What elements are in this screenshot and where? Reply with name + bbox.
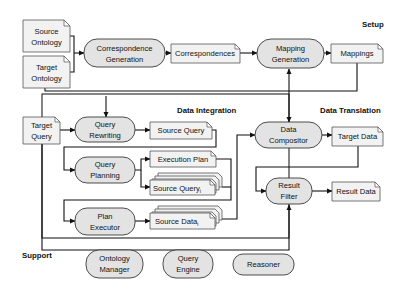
doc-label: Source Query — [158, 126, 205, 135]
doc-target-query: Target Query — [23, 117, 60, 144]
process-label: Correspondence — [96, 44, 152, 53]
process-label: Compositor — [269, 136, 308, 145]
doc-target-ontology: Target Ontology — [23, 56, 70, 88]
doc-label: Source Datai — [155, 217, 198, 227]
doc-label: Target — [36, 63, 58, 72]
doc-label: Target Data — [338, 132, 378, 141]
process-result-filter: Result Filter — [266, 178, 312, 204]
process-label: Mapping — [276, 44, 305, 53]
doc-execution-plan: Execution Plan — [150, 151, 216, 167]
doc-label: Ontology — [31, 74, 62, 83]
doc-label: Target — [31, 121, 53, 130]
process-label: Manager — [100, 265, 130, 274]
process-label: Plan — [97, 212, 112, 221]
doc-label: Result Data — [336, 187, 376, 196]
doc-source-query: Source Query — [150, 122, 212, 139]
connector — [70, 36, 74, 72]
process-label: Rewriting — [89, 131, 121, 140]
process-label: Query — [95, 160, 116, 169]
process-query-planning: Query Planning — [75, 157, 135, 183]
connector — [222, 135, 255, 219]
section-label-support: Support — [22, 251, 52, 260]
doc-label: Ontology — [31, 38, 62, 47]
section-label-data-integration: Data Integration — [177, 106, 237, 115]
connector — [45, 88, 289, 91]
doc-correspondences: Correspondences — [171, 44, 240, 63]
process-mapping-generation: Mapping Generation — [257, 39, 324, 68]
doc-target-data: Target Data — [332, 127, 383, 146]
process-label: Engine — [176, 265, 200, 274]
architecture-diagram: Setup Data Integration Data Translation … — [0, 0, 404, 294]
process-label: Executor — [90, 223, 120, 232]
doc-mappings: Mappings — [331, 44, 383, 63]
doc-stack-source-data-i: Source Datai — [150, 206, 222, 229]
section-label-data-translation: Data Translation — [320, 106, 381, 115]
process-query-engine: Query Engine — [163, 250, 213, 278]
process-label: Ontology — [99, 254, 130, 263]
process-label: Generation — [272, 55, 310, 64]
doc-label: Query — [31, 132, 52, 141]
doc-label: Source — [34, 27, 58, 36]
process-label: Query — [178, 254, 199, 263]
doc-stack-source-query-i: Source Queryi — [150, 173, 222, 195]
process-label: Generation — [106, 55, 144, 64]
process-label: Result — [278, 181, 300, 190]
doc-source-ontology: Source Ontology — [23, 20, 70, 52]
process-label: Data — [280, 125, 297, 134]
connector — [141, 170, 150, 187]
doc-label: Source Queryi — [153, 184, 201, 194]
doc-label: Mappings — [341, 49, 374, 58]
process-label: Query — [95, 120, 116, 129]
process-reasoner: Reasoner — [233, 254, 294, 275]
process-query-rewriting: Query Rewriting — [75, 117, 135, 142]
process-correspondence-generation: Correspondence Generation — [84, 39, 165, 67]
process-plan-executor: Plan Executor — [75, 208, 135, 235]
connector — [135, 159, 150, 170]
doc-label: Correspondences — [175, 49, 235, 58]
process-ontology-manager: Ontology Manager — [86, 250, 143, 278]
process-label: Reasoner — [247, 260, 280, 269]
doc-label: Execution Plan — [158, 155, 209, 164]
process-data-compositor: Data Compositor — [255, 122, 322, 148]
process-label: Filter — [281, 192, 298, 201]
section-label-setup: Setup — [362, 20, 384, 29]
doc-result-data: Result Data — [332, 182, 380, 201]
process-label: Planning — [90, 171, 120, 180]
